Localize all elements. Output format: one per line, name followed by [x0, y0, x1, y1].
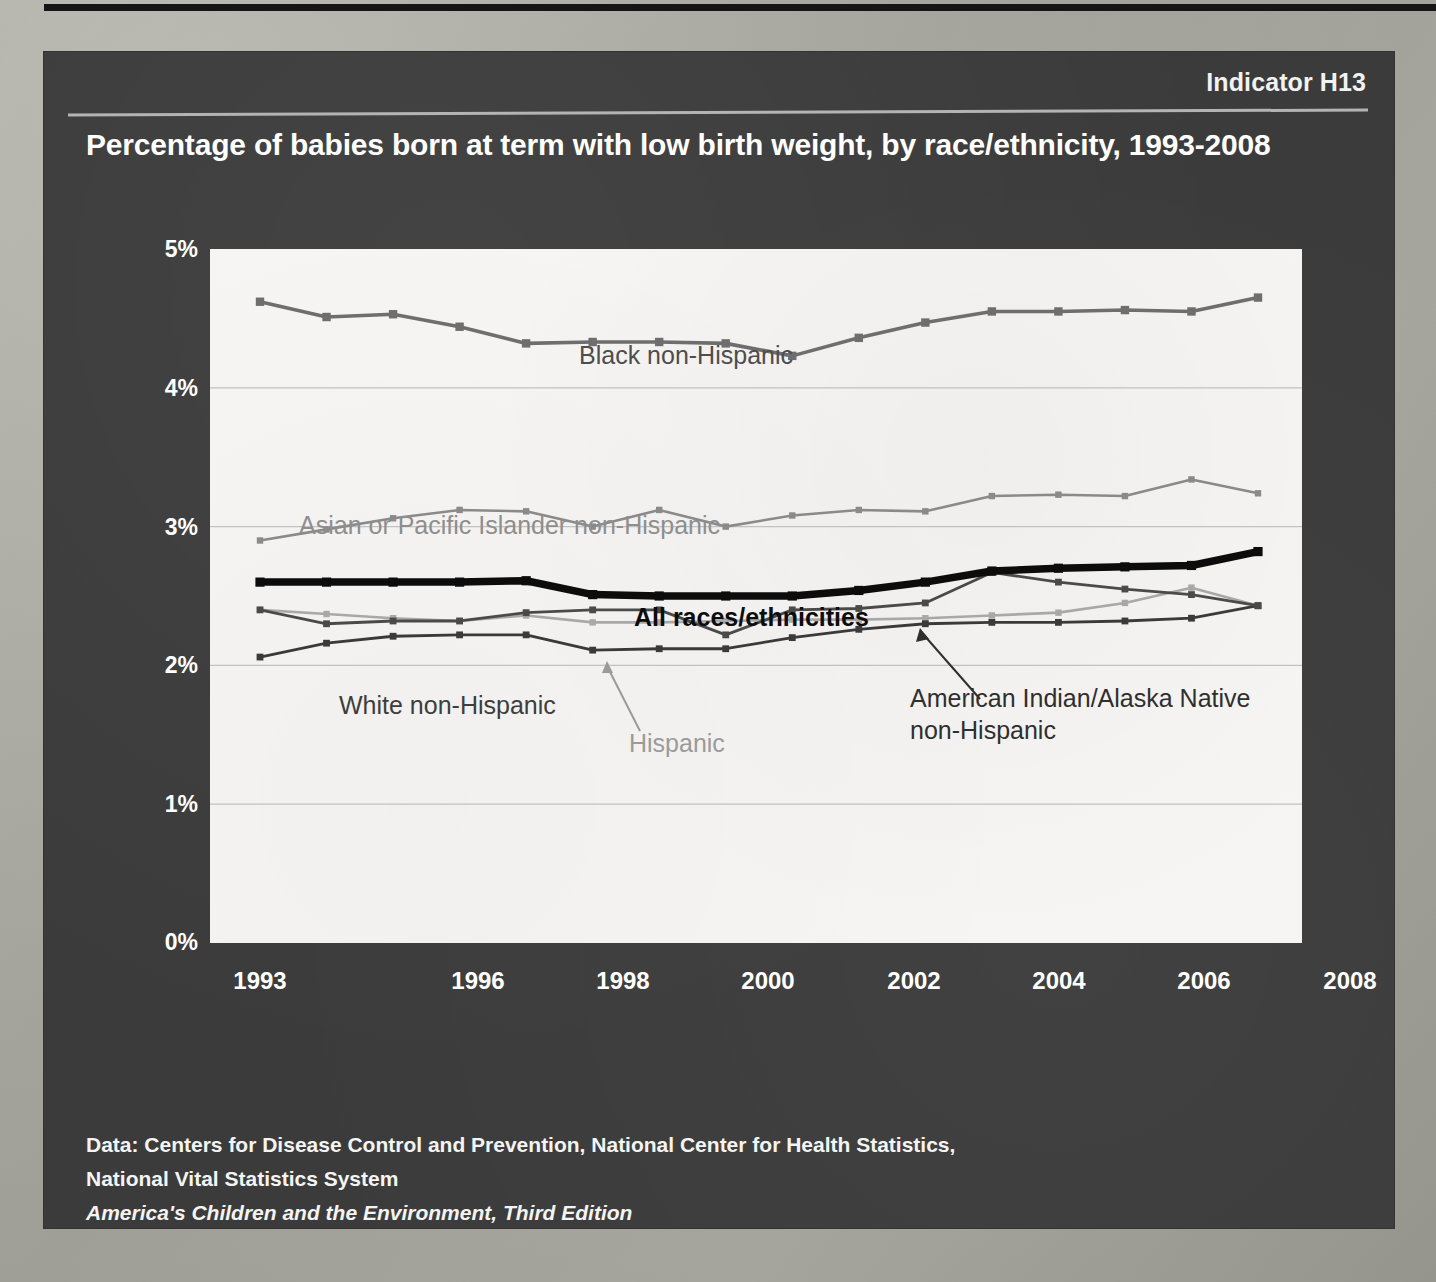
series-label-hispanic: Hispanic [629, 729, 725, 758]
series-label-aian-line2: non-Hispanic [910, 716, 1056, 744]
series-label-aian-line1: American Indian/Alaska Native [910, 684, 1250, 712]
slide-panel: Indicator H13 Percentage of babies born … [44, 52, 1394, 1228]
x-axis-tick-1993: 1993 [200, 967, 320, 995]
y-axis-tick-4: 4% [118, 375, 198, 402]
footer-data-source-line2: National Vital Statistics System [86, 1162, 1336, 1196]
x-axis-tick-2006: 2006 [1144, 967, 1264, 995]
y-axis-tick-3: 3% [118, 514, 198, 541]
series-label-american-indian-alaska-native: American Indian/Alaska Native non-Hispan… [910, 682, 1250, 746]
x-axis-tick-1996: 1996 [418, 967, 538, 995]
page-top-rule [44, 4, 1436, 11]
series-label-white-non-hispanic: White non-Hispanic [339, 691, 556, 720]
y-axis-tick-0: 0% [118, 929, 198, 956]
x-axis-tick-2004: 2004 [999, 967, 1119, 995]
header-divider [68, 109, 1368, 117]
series-label-black-non-hispanic: Black non-Hispanic [579, 341, 793, 370]
y-axis-tick-5: 5% [118, 236, 198, 263]
page-title: Percentage of babies born at term with l… [86, 124, 1376, 167]
x-axis-tick-2002: 2002 [854, 967, 974, 995]
x-axis-tick-1998: 1998 [563, 967, 683, 995]
footer-data-source-line1: Data: Centers for Disease Control and Pr… [86, 1128, 1336, 1162]
footer-block: Data: Centers for Disease Control and Pr… [86, 1128, 1336, 1228]
indicator-label: Indicator H13 [1206, 68, 1366, 97]
series-label-all-races: All races/ethnicities [634, 603, 869, 632]
y-axis-tick-2: 2% [118, 652, 198, 679]
y-axis-tick-1: 1% [118, 791, 198, 818]
footer-publication: America's Children and the Environment, … [86, 1196, 1336, 1228]
x-axis-tick-2008: 2008 [1290, 967, 1394, 995]
series-label-asian-pacific-islander: Asian or Pacific Islander non-Hispanic [299, 511, 720, 540]
x-axis-tick-2000: 2000 [708, 967, 828, 995]
